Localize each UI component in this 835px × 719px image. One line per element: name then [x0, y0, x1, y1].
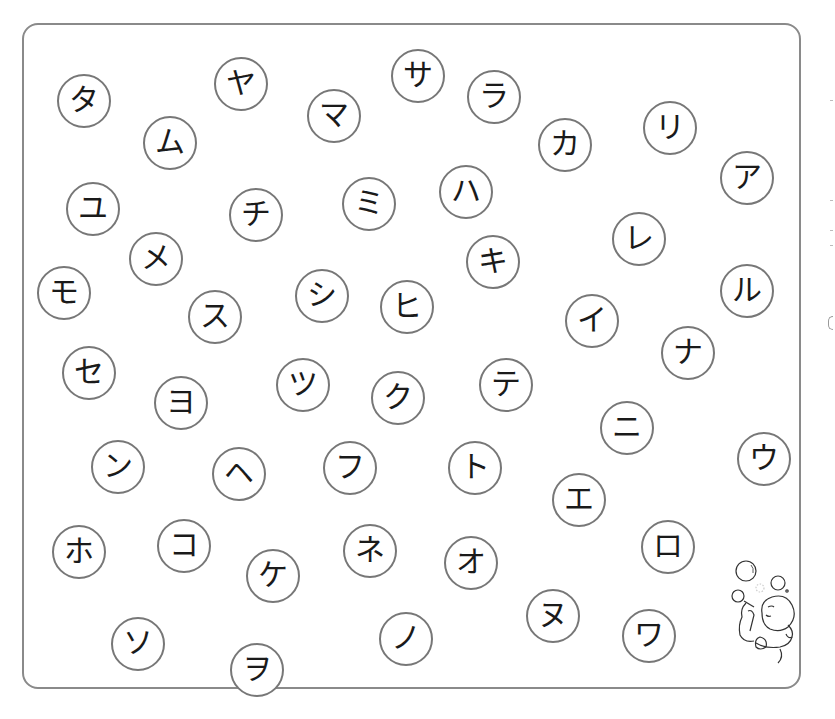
katakana-character: ラ — [479, 81, 509, 111]
katakana-bubble[interactable]: オ — [444, 536, 498, 590]
katakana-character: コ — [169, 530, 199, 560]
katakana-character: エ — [564, 484, 594, 514]
katakana-character: マ — [319, 100, 349, 130]
katakana-character: ヌ — [538, 600, 568, 630]
katakana-character: ホ — [64, 536, 94, 566]
katakana-bubble[interactable]: ネ — [343, 524, 397, 578]
katakana-bubble[interactable]: イ — [565, 294, 619, 348]
katakana-character: ム — [155, 127, 185, 157]
katakana-character: ソ — [123, 628, 153, 658]
katakana-bubble[interactable]: ノ — [379, 612, 433, 666]
katakana-bubble[interactable]: ヘ — [212, 447, 266, 501]
katakana-bubble[interactable]: ワ — [622, 609, 676, 663]
katakana-character: シ — [307, 280, 337, 310]
katakana-bubble[interactable]: リ — [643, 101, 697, 155]
katakana-character: ン — [103, 451, 133, 481]
katakana-bubble[interactable]: ヌ — [526, 589, 580, 643]
katakana-bubble[interactable]: エ — [552, 473, 606, 527]
katakana-character: レ — [624, 223, 654, 253]
katakana-bubble[interactable]: ヒ — [380, 280, 434, 334]
katakana-bubble[interactable]: ケ — [246, 549, 300, 603]
katakana-character: メ — [141, 243, 171, 273]
katakana-character: ト — [460, 452, 490, 482]
katakana-character: ク — [383, 382, 413, 412]
katakana-character: ロ — [653, 531, 683, 561]
katakana-character: ヲ — [242, 654, 272, 684]
katakana-bubble[interactable]: ル — [720, 264, 774, 318]
katakana-bubble[interactable]: サ — [391, 49, 445, 103]
katakana-character: セ — [74, 357, 104, 387]
katakana-bubble[interactable]: ユ — [66, 182, 120, 236]
katakana-character: ル — [732, 275, 762, 305]
katakana-character: ミ — [354, 188, 384, 218]
katakana-character: ケ — [258, 560, 288, 590]
katakana-bubble[interactable]: ロ — [641, 520, 695, 574]
child-blowing-bubbles-icon — [722, 555, 812, 670]
katakana-bubble[interactable]: ヤ — [214, 57, 268, 111]
katakana-character: ニ — [612, 412, 642, 442]
page-edge-marks — [818, 100, 835, 420]
katakana-bubble[interactable]: モ — [37, 266, 91, 320]
katakana-bubble[interactable]: メ — [129, 232, 183, 286]
katakana-character: ヨ — [166, 387, 196, 417]
katakana-character: モ — [49, 277, 79, 307]
katakana-bubble[interactable]: チ — [229, 188, 283, 242]
katakana-bubble[interactable]: ク — [371, 371, 425, 425]
katakana-character: イ — [577, 305, 607, 335]
katakana-character: オ — [456, 547, 486, 577]
katakana-bubble[interactable]: セ — [62, 346, 116, 400]
katakana-character: ヘ — [224, 458, 254, 488]
katakana-bubble[interactable]: ニ — [600, 401, 654, 455]
katakana-bubble[interactable]: ヨ — [154, 376, 208, 430]
katakana-character: ス — [200, 301, 230, 331]
katakana-character: ノ — [391, 623, 421, 653]
katakana-bubble[interactable]: カ — [538, 118, 592, 172]
katakana-bubble[interactable]: シ — [295, 269, 349, 323]
katakana-character: ア — [732, 162, 762, 192]
katakana-bubble[interactable]: ン — [91, 440, 145, 494]
katakana-bubble[interactable]: ツ — [276, 358, 330, 412]
katakana-bubble[interactable]: マ — [307, 89, 361, 143]
katakana-character: ユ — [78, 193, 108, 223]
katakana-bubble[interactable]: ミ — [342, 177, 396, 231]
katakana-bubble[interactable]: タ — [57, 74, 111, 128]
katakana-bubble[interactable]: キ — [466, 235, 520, 289]
katakana-character: リ — [655, 112, 685, 142]
katakana-bubble[interactable]: レ — [612, 212, 666, 266]
katakana-character: ヒ — [392, 291, 422, 321]
katakana-bubble[interactable]: ナ — [661, 326, 715, 380]
katakana-bubble[interactable]: ソ — [111, 617, 165, 671]
katakana-character: ウ — [749, 443, 779, 473]
katakana-bubble[interactable]: ム — [143, 116, 197, 170]
katakana-bubble[interactable]: ト — [448, 441, 502, 495]
katakana-character: ナ — [673, 337, 703, 367]
katakana-bubble[interactable]: ラ — [467, 70, 521, 124]
katakana-character: タ — [69, 85, 99, 115]
katakana-character: ネ — [355, 535, 385, 565]
katakana-bubble[interactable]: ウ — [737, 432, 791, 486]
katakana-bubble[interactable]: ヲ — [230, 643, 284, 697]
katakana-character: サ — [403, 60, 433, 90]
katakana-character: カ — [550, 129, 580, 159]
katakana-character: ツ — [288, 369, 318, 399]
katakana-bubble[interactable]: ホ — [52, 525, 106, 579]
katakana-character: ヤ — [226, 68, 256, 98]
katakana-character: ハ — [451, 176, 481, 206]
katakana-character: ワ — [634, 620, 664, 650]
katakana-character: チ — [241, 199, 271, 229]
katakana-bubble[interactable]: テ — [479, 358, 533, 412]
katakana-bubble[interactable]: フ — [323, 441, 377, 495]
katakana-character: フ — [335, 452, 365, 482]
katakana-character: キ — [478, 246, 508, 276]
katakana-bubble[interactable]: ハ — [439, 165, 493, 219]
katakana-bubble[interactable]: ス — [188, 290, 242, 344]
katakana-character: テ — [491, 369, 521, 399]
katakana-bubble[interactable]: ア — [720, 151, 774, 205]
katakana-bubble[interactable]: コ — [157, 519, 211, 573]
